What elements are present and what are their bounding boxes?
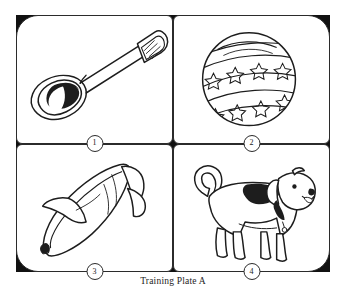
spoon-icon xyxy=(17,16,172,142)
panel-number-3: 3 xyxy=(86,263,103,280)
ball-icon xyxy=(174,16,329,142)
plate-caption: Training Plate A xyxy=(0,276,346,286)
panel-ball[interactable]: 2 xyxy=(173,15,330,144)
training-plate: 1 xyxy=(16,15,330,272)
banana-icon xyxy=(17,145,172,271)
panel-number-1: 1 xyxy=(86,135,103,152)
panel-number-4: 4 xyxy=(243,263,260,280)
panel-grid: 1 xyxy=(16,15,330,272)
panel-dog[interactable]: 4 xyxy=(173,144,330,273)
dog-icon xyxy=(174,145,329,271)
panel-spoon[interactable]: 1 xyxy=(16,15,173,144)
panel-number-2: 2 xyxy=(243,135,260,152)
panel-banana[interactable]: 3 xyxy=(16,144,173,273)
